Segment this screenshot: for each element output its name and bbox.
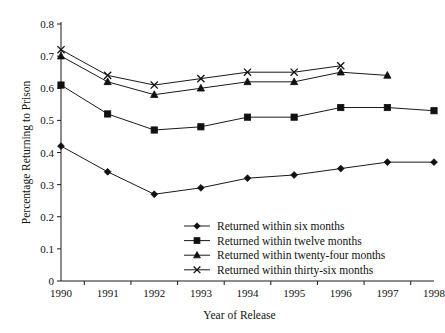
x-axis-tick-label: 1997	[376, 287, 399, 299]
marker-square	[151, 127, 157, 133]
legend-item[interactable]: Returned within twelve months	[184, 235, 362, 247]
x-axis-title: Year of Release	[203, 309, 275, 321]
marker-diamond	[104, 168, 111, 175]
marker-square	[244, 114, 250, 120]
marker-square	[291, 114, 297, 120]
legend-item[interactable]: Returned within six months	[184, 220, 345, 232]
series-x	[57, 46, 344, 88]
marker-diamond	[197, 184, 204, 191]
y-axis-tick-label: 0.2	[40, 211, 54, 223]
marker-diamond	[244, 175, 251, 182]
marker-square	[198, 124, 204, 130]
legend-label: Returned within six months	[217, 220, 345, 232]
series-square	[58, 82, 437, 133]
y-axis-tick-label: 0.4	[40, 147, 54, 159]
marker-square	[104, 111, 110, 117]
legend-label: Returned within twelve months	[217, 235, 362, 247]
series-line	[61, 146, 434, 194]
marker-diamond	[431, 159, 438, 166]
marker-triangle	[57, 52, 64, 59]
x-axis-tick-label: 1991	[97, 287, 119, 299]
marker-square	[431, 108, 437, 114]
legend-label: Returned within twenty-four months	[217, 249, 386, 262]
x-axis-tick-label: 1994	[237, 287, 260, 299]
x-axis-tick-label: 1996	[330, 287, 353, 299]
x-axis-tick-label: 1990	[50, 287, 73, 299]
marker-diamond	[337, 165, 344, 172]
marker-triangle	[104, 78, 111, 85]
chart-container: 00.10.20.30.40.50.60.70.8199019911992199…	[0, 0, 445, 333]
marker-triangle	[337, 68, 344, 75]
series-line	[61, 85, 434, 130]
marker-square	[384, 104, 390, 110]
legend-item[interactable]: Returned within twenty-four months	[184, 249, 386, 262]
marker-diamond	[384, 159, 391, 166]
marker-diamond	[194, 223, 200, 229]
series-diamond	[58, 143, 438, 198]
legend: Returned within six monthsReturned withi…	[184, 220, 386, 277]
x-axis-tick-label: 1998	[423, 287, 445, 299]
marker-diamond	[58, 143, 65, 150]
y-axis-tick-label: 0.1	[40, 243, 54, 255]
marker-triangle	[244, 78, 251, 85]
line-chart: 00.10.20.30.40.50.60.70.8199019911992199…	[0, 0, 445, 333]
marker-diamond	[291, 172, 298, 179]
marker-square	[58, 82, 64, 88]
y-axis-tick-label: 0.6	[40, 82, 54, 94]
marker-square	[194, 238, 200, 244]
legend-label: Returned within thirty-six months	[217, 264, 374, 277]
x-axis-tick-label: 1995	[283, 287, 306, 299]
y-axis-tick-label: 0.5	[40, 114, 54, 126]
x-axis-tick-label: 1993	[190, 287, 213, 299]
y-axis-tick-label: 0.3	[40, 179, 54, 191]
y-axis-title: Percentage Returning to Prison	[20, 81, 33, 225]
y-axis-tick-label: 0.8	[40, 18, 54, 30]
marker-diamond	[151, 191, 158, 198]
legend-item[interactable]: Returned within thirty-six months	[184, 264, 374, 277]
marker-triangle	[194, 252, 201, 258]
y-axis-tick-label: 0.7	[40, 50, 54, 62]
marker-square	[338, 104, 344, 110]
y-axis-tick-label: 0	[49, 275, 55, 287]
x-axis-tick-label: 1992	[143, 287, 165, 299]
